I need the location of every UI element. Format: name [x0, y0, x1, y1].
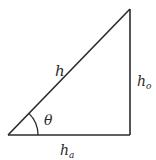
adjacent-label-main: h — [60, 142, 69, 158]
right-triangle-diagram: h θ ho ha — [0, 0, 156, 160]
adjacent-label-subscript: a — [69, 150, 74, 160]
opposite-label-main: h — [137, 73, 146, 89]
opposite-label: ho — [137, 73, 152, 91]
hypotenuse-label: h — [55, 62, 65, 80]
adjacent-label: ha — [60, 142, 74, 160]
angle-label: θ — [44, 112, 53, 128]
hypotenuse-side — [8, 9, 130, 135]
angle-arc — [29, 113, 38, 135]
opposite-label-subscript: o — [146, 81, 152, 91]
